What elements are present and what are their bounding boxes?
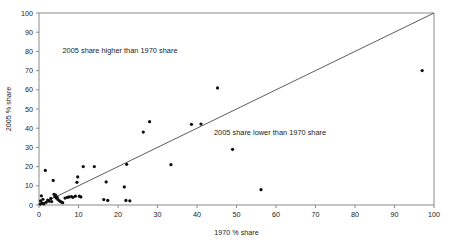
data-point [41,198,44,201]
annotations: 2005 share higher than 1970 share2005 sh… [62,46,326,137]
data-point [169,163,172,166]
x-tick-label: 0 [37,210,41,219]
y-axis-ticks: 0102030405060708090100 [21,9,39,210]
data-point [52,179,55,182]
x-axis-title: 1970 % share [214,228,258,237]
x-tick-label: 90 [391,210,399,219]
data-point [93,165,96,168]
y-tick-label: 30 [25,143,33,152]
data-point [123,185,126,188]
data-point [44,169,47,172]
x-tick-label: 60 [272,210,280,219]
y-tick-label: 60 [25,85,33,94]
data-point [148,120,151,123]
data-point [40,194,43,197]
x-tick-label: 50 [233,210,241,219]
y-tick-label: 50 [25,105,33,114]
chart-annotation: 2005 share lower than 1970 share [214,128,326,137]
data-point [128,199,131,202]
chart-canvas: 0102030405060708090100 01020304050607080… [0,0,451,245]
data-point [106,199,109,202]
y-axis-title: 2005 % share [4,87,13,131]
x-axis-ticks: 0102030405060708090100 [37,205,440,219]
y-tick-label: 10 [25,181,33,190]
data-point [82,165,85,168]
data-point [421,69,424,72]
data-point [61,201,64,204]
y-tick-label: 0 [29,201,33,210]
y-tick-label: 20 [25,162,33,171]
data-point [190,123,193,126]
data-point [50,200,53,203]
x-tick-label: 100 [428,210,440,219]
x-tick-label: 80 [351,210,359,219]
data-point [74,195,77,198]
x-tick-label: 30 [154,210,162,219]
data-point [105,180,108,183]
data-point [216,86,219,89]
y-tick-label: 40 [25,124,33,133]
y-tick-label: 70 [25,66,33,75]
y-tick-label: 100 [21,9,33,18]
x-tick-label: 40 [193,210,201,219]
x-tick-label: 70 [312,210,320,219]
data-point [49,197,52,200]
x-tick-label: 10 [75,210,83,219]
data-point [199,122,202,125]
data-point [259,188,262,191]
scatter-chart: 0102030405060708090100 01020304050607080… [0,0,451,245]
chart-annotation: 2005 share higher than 1970 share [62,46,177,55]
data-point [125,163,128,166]
x-tick-label: 20 [114,210,122,219]
identity-reference-line [39,13,434,205]
data-point [79,195,82,198]
data-point [102,198,105,201]
y-tick-label: 80 [25,47,33,56]
reference-line [39,13,434,205]
y-tick-label: 90 [25,28,33,37]
data-point [75,181,78,184]
data-points [39,69,424,206]
data-point [124,199,127,202]
data-point [142,130,145,133]
data-point [76,175,79,178]
data-point [231,148,234,151]
